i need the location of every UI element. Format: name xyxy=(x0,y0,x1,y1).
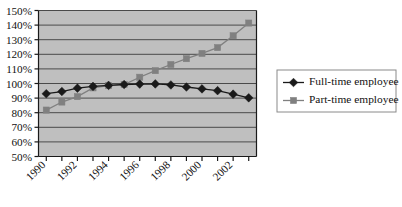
data-point-marker xyxy=(199,50,205,56)
y-tick-label: 130% xyxy=(6,34,32,46)
data-point-marker xyxy=(137,74,143,80)
x-tick-label: 1992 xyxy=(55,158,79,182)
y-tick-label: 70% xyxy=(11,121,32,133)
data-point-marker xyxy=(246,20,252,26)
data-point-marker xyxy=(168,61,174,67)
y-tick-label: 50% xyxy=(11,151,32,163)
data-point-marker xyxy=(214,44,220,50)
data-point-marker xyxy=(230,33,236,39)
y-axis: 50%60%70%80%90%100%110%120%130%140%150% xyxy=(6,5,39,163)
y-tick-label: 100% xyxy=(6,78,32,90)
x-axis: 1990199219941996199820002002 xyxy=(23,157,248,183)
data-point-marker xyxy=(74,94,80,100)
x-tick-label: 2000 xyxy=(179,158,204,183)
data-point-marker xyxy=(183,56,189,62)
x-tick-label: 2002 xyxy=(210,158,234,182)
y-tick-label: 120% xyxy=(6,48,32,60)
y-tick-label: 140% xyxy=(6,19,32,31)
x-tick-label: 1998 xyxy=(148,158,173,183)
legend-item-label: Full-time employee xyxy=(309,75,399,87)
x-tick-label: 1996 xyxy=(117,158,142,183)
data-point-marker xyxy=(152,68,158,74)
y-tick-label: 90% xyxy=(11,92,32,104)
legend-item-label: Part-time employee xyxy=(309,93,399,105)
data-point-marker xyxy=(43,107,49,113)
x-tick-label: 1994 xyxy=(86,158,111,183)
y-tick-label: 80% xyxy=(11,107,32,119)
y-tick-label: 110% xyxy=(6,63,32,75)
legend: Full-time employeePart-time employee xyxy=(277,70,399,112)
line-chart: 50%60%70%80%90%100%110%120%130%140%150%1… xyxy=(0,0,402,207)
chart-canvas: 50%60%70%80%90%100%110%120%130%140%150%1… xyxy=(0,0,402,207)
y-tick-label: 150% xyxy=(6,5,32,17)
legend-marker-icon xyxy=(290,97,296,103)
y-tick-label: 60% xyxy=(11,136,32,148)
data-point-marker xyxy=(59,99,65,105)
